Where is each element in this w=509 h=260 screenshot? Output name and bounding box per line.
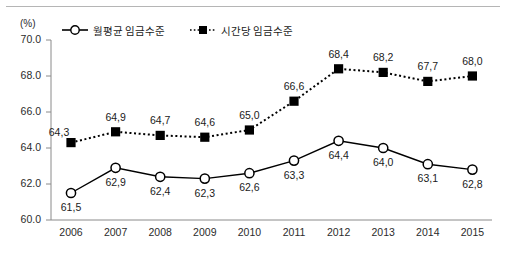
data-point-marker [423, 160, 432, 169]
data-point-label: 64,3 [39, 126, 79, 138]
data-point-label: 62,4 [140, 185, 180, 197]
series-line-1 [71, 69, 472, 143]
data-point-label: 68,0 [452, 55, 492, 67]
data-point-marker [468, 165, 477, 174]
data-point-marker [156, 131, 165, 140]
data-point-marker [156, 172, 165, 181]
data-point-label: 64,6 [185, 116, 225, 128]
y-axis-tick-label: 64.0 [7, 141, 41, 153]
data-point-marker [289, 97, 298, 106]
data-point-marker [423, 77, 432, 86]
data-point-marker [468, 71, 477, 80]
data-point-label: 62,6 [229, 181, 269, 193]
data-point-label: 62,8 [452, 178, 492, 190]
data-point-marker [66, 188, 75, 197]
x-axis-tick-label: 2006 [48, 226, 94, 238]
x-axis-tick-label: 2015 [449, 226, 495, 238]
data-point-label: 64,9 [96, 111, 136, 123]
data-point-label: 64,4 [319, 149, 359, 161]
data-point-label: 66,6 [274, 80, 314, 92]
x-axis-tick-label: 2013 [360, 226, 406, 238]
data-point-marker [66, 138, 75, 147]
data-point-label: 64,0 [363, 156, 403, 168]
data-point-label: 68,4 [319, 48, 359, 60]
data-point-label: 62,3 [185, 187, 225, 199]
data-point-label: 65,0 [229, 109, 269, 121]
data-point-label: 62,9 [96, 176, 136, 188]
data-point-marker [200, 133, 209, 142]
y-axis-tick-label: 60.0 [7, 213, 41, 225]
x-axis-tick-label: 2014 [405, 226, 451, 238]
data-point-marker [111, 127, 120, 136]
data-point-marker [379, 143, 388, 152]
data-point-label: 61,5 [51, 201, 91, 213]
data-point-marker [334, 136, 343, 145]
data-point-label: 64,7 [140, 114, 180, 126]
x-axis-tick-label: 2010 [226, 226, 272, 238]
data-point-label: 68,2 [363, 51, 403, 63]
data-point-marker [200, 174, 209, 183]
data-point-marker [379, 68, 388, 77]
data-point-marker [289, 156, 298, 165]
data-point-marker [111, 163, 120, 172]
chart-container: (%) 월평균 임금수준 시간당 임금수준 70.068.066.064.062… [0, 0, 509, 260]
data-point-label: 67,7 [408, 60, 448, 72]
y-axis-tick-label: 70.0 [7, 33, 41, 45]
x-axis-tick-label: 2009 [182, 226, 228, 238]
y-axis-tick-label: 66.0 [7, 105, 41, 117]
x-axis-tick-label: 2012 [316, 226, 362, 238]
y-axis-tick-label: 68.0 [7, 69, 41, 81]
data-point-marker [334, 64, 343, 73]
x-axis-tick-label: 2007 [93, 226, 139, 238]
x-axis-tick-label: 2011 [271, 226, 317, 238]
y-axis-tick-label: 62.0 [7, 177, 41, 189]
x-axis-tick-label: 2008 [137, 226, 183, 238]
data-point-marker [245, 169, 254, 178]
data-point-label: 63,1 [408, 172, 448, 184]
data-point-marker [245, 125, 254, 134]
data-point-label: 63,3 [274, 169, 314, 181]
